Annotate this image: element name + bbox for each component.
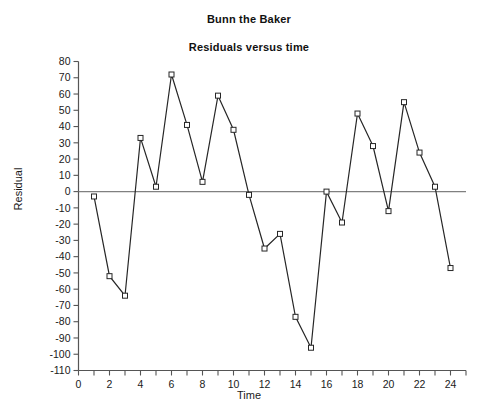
- x-tick-label: 0: [76, 378, 82, 390]
- y-axis-ticks: 80706050403020100-10-20-30-40-50-60-70-8…: [49, 55, 78, 376]
- x-tick-label: 4: [138, 378, 144, 390]
- x-tick-label: 16: [321, 378, 333, 390]
- data-point-marker: [138, 135, 143, 140]
- data-point-marker: [293, 314, 298, 319]
- residual-series-line: [94, 75, 451, 348]
- page-title: Bunn the Baker: [0, 13, 498, 25]
- data-point-marker: [402, 100, 407, 105]
- y-tick-label: 0: [65, 185, 71, 197]
- x-tick-label: 22: [414, 378, 426, 390]
- data-point-marker: [216, 93, 221, 98]
- data-point-marker: [417, 150, 422, 155]
- y-tick-label: 10: [59, 169, 71, 181]
- chart-subtitle: Residuals versus time: [0, 41, 498, 53]
- data-point-marker: [433, 184, 438, 189]
- data-point-marker: [371, 144, 376, 149]
- data-point-marker: [107, 274, 112, 279]
- y-tick-label: -80: [55, 315, 70, 327]
- y-tick-label: -90: [55, 332, 70, 344]
- data-point-marker: [169, 72, 174, 77]
- y-tick-label: 60: [59, 88, 71, 100]
- y-tick-label: 30: [59, 137, 71, 149]
- y-tick-label: -50: [55, 267, 70, 279]
- residual-plot-figure: Bunn the Baker Residuals versus time 807…: [0, 0, 498, 414]
- x-tick-label: 8: [200, 378, 206, 390]
- data-point-marker: [278, 231, 283, 236]
- y-tick-label: -60: [55, 283, 70, 295]
- data-point-marker: [200, 179, 205, 184]
- data-point-marker: [154, 184, 159, 189]
- data-point-marker: [355, 111, 360, 116]
- y-axis-label: Residual: [12, 149, 24, 229]
- x-axis-label: Time: [0, 389, 498, 401]
- y-tick-label: -20: [55, 218, 70, 230]
- y-tick-label: 40: [59, 120, 71, 132]
- y-tick-label: -110: [50, 364, 70, 376]
- chart-canvas: 80706050403020100-10-20-30-40-50-60-70-8…: [0, 0, 498, 414]
- x-tick-label: 2: [107, 378, 113, 390]
- x-tick-label: 12: [259, 378, 271, 390]
- data-point-marker: [123, 293, 128, 298]
- data-point-marker: [324, 189, 329, 194]
- data-point-marker: [92, 194, 97, 199]
- y-tick-label: -100: [49, 348, 70, 360]
- x-tick-label: 6: [169, 378, 175, 390]
- data-point-marker: [340, 220, 345, 225]
- y-tick-label: -10: [55, 202, 70, 214]
- data-point-marker: [309, 345, 314, 350]
- y-tick-label: -40: [55, 250, 70, 262]
- x-tick-label: 20: [383, 378, 395, 390]
- y-tick-label: 50: [59, 104, 71, 116]
- x-axis-ticks: 024681012141618202224: [76, 371, 466, 390]
- data-point-marker: [262, 246, 267, 251]
- y-tick-label: 70: [59, 71, 71, 83]
- y-tick-label: 80: [59, 55, 71, 67]
- x-tick-label: 18: [352, 378, 364, 390]
- data-point-marker: [231, 127, 236, 132]
- data-point-marker: [386, 209, 391, 214]
- data-point-marker: [247, 192, 252, 197]
- x-tick-label: 10: [228, 378, 240, 390]
- y-tick-label: -70: [55, 299, 70, 311]
- data-point-marker: [448, 266, 453, 271]
- x-tick-label: 24: [445, 378, 457, 390]
- x-tick-label: 14: [290, 378, 302, 390]
- data-point-markers: [92, 72, 454, 350]
- y-tick-label: -30: [55, 234, 70, 246]
- y-tick-label: 20: [59, 153, 71, 165]
- data-point-marker: [185, 122, 190, 127]
- title-block: Bunn the Baker Residuals versus time: [0, 0, 498, 53]
